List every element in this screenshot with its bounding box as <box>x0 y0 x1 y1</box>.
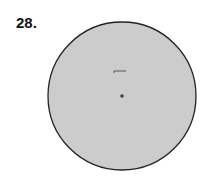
circle-figure <box>0 0 213 185</box>
center-dot <box>120 94 124 98</box>
